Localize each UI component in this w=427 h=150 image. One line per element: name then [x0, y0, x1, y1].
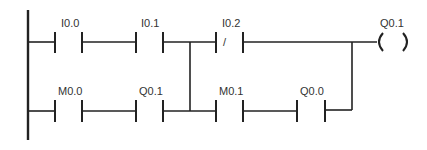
contact-i0-0: I0.0: [55, 17, 82, 53]
contact-q0-1: Q0.1: [136, 85, 163, 122]
contact-label: I0.2: [222, 17, 240, 29]
contact-label: M0.1: [219, 85, 243, 97]
contact-q0-0: Q0.0: [297, 85, 325, 122]
contact-label: M0.0: [58, 85, 82, 97]
contact-label: I0.0: [61, 17, 79, 29]
nc-slash-icon: /: [223, 36, 227, 48]
contact-m0-1: M0.1: [216, 85, 243, 122]
contact-label: Q0.0: [300, 85, 324, 97]
rung-1: I0.0 I0.1 / I0.2 Q0.1: [28, 17, 407, 53]
coil-label: Q0.1: [380, 17, 404, 29]
contact-label: I0.1: [141, 17, 159, 29]
contact-m0-0: M0.0: [55, 85, 82, 122]
ladder-diagram: I0.0 I0.1 / I0.2 Q0.1 M0.0: [0, 0, 427, 150]
contact-i0-2-nc: / I0.2: [216, 17, 243, 53]
contact-i0-1: I0.1: [136, 17, 163, 53]
contact-label: Q0.1: [139, 85, 163, 97]
coil-q0-1: Q0.1: [379, 17, 407, 51]
